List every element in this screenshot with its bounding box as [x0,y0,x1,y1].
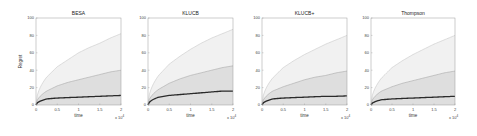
x-axis-label: time [409,113,418,118]
y-tick-label: 40 [142,68,147,73]
y-tick-label: 60 [30,50,35,55]
x-axis-label: time [300,113,309,118]
subplot-klucb: KLUCB02040608010000.511.52timex 104 [139,10,236,120]
y-tick-label: 20 [30,85,35,90]
y-tick-label: 20 [256,85,261,90]
subplot-klucb-: KLUCB+02040608010000.511.52timex 104 [253,10,350,120]
subplot-title: KLUCB+ [295,10,315,16]
x-tick-label: 2 [232,107,235,112]
subplot-title: Thompson [401,10,425,16]
x-tick-label: 1.5 [97,107,103,112]
y-axis-label: Regret [18,54,23,68]
y-tick-label: 100 [253,15,260,20]
x-tick-label: 1 [303,107,306,112]
y-tick-label: 60 [256,50,261,55]
y-tick-label: 80 [256,33,261,38]
x-tick-label: 0 [261,107,264,112]
x-axis-label: time [74,113,83,118]
x-tick-label: 1.5 [431,107,437,112]
x-tick-label: 1 [412,107,415,112]
y-tick-label: 80 [142,33,147,38]
x-tick-label: 1.5 [323,107,329,112]
x-axis-label: time [186,113,195,118]
subplot-thompson: Thompson02040608010000.511.52timex 104 [362,10,458,120]
subplot-title: KLUCB [182,10,199,16]
x-multiplier-label: x 104 [227,114,237,120]
y-tick-label: 80 [365,33,370,38]
subplot-besa: BESA02040608010000.511.52timex 104Regret [18,10,125,120]
x-tick-label: 1 [77,107,80,112]
y-tick-label: 100 [139,15,146,20]
x-tick-label: 2 [346,107,349,112]
x-tick-label: 0.5 [389,107,395,112]
x-multiplier-label: x 104 [341,114,351,120]
x-tick-label: 1.5 [209,107,215,112]
x-multiplier-label: x 104 [449,114,459,120]
x-tick-label: 0 [35,107,38,112]
x-tick-label: 0.5 [280,107,286,112]
x-tick-label: 0 [370,107,373,112]
y-tick-label: 60 [142,50,147,55]
y-tick-label: 40 [365,68,370,73]
y-tick-label: 100 [27,15,34,20]
x-tick-label: 0.5 [166,107,172,112]
y-tick-label: 100 [362,15,369,20]
x-tick-label: 2 [120,107,123,112]
subplot-title: BESA [72,10,86,16]
x-tick-label: 2 [454,107,457,112]
figure: BESA02040608010000.511.52timex 104Regret… [0,0,477,136]
x-multiplier-label: x 104 [115,114,125,120]
x-tick-label: 0.5 [54,107,60,112]
y-tick-label: 60 [365,50,370,55]
y-tick-label: 40 [30,68,35,73]
x-tick-label: 0 [147,107,150,112]
y-tick-label: 40 [256,68,261,73]
y-tick-label: 80 [30,33,35,38]
y-tick-label: 20 [365,85,370,90]
x-tick-label: 1 [189,107,192,112]
y-tick-label: 20 [142,85,147,90]
